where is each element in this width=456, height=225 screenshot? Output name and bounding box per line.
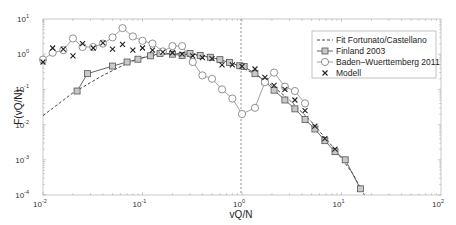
data-point xyxy=(90,43,97,50)
legend-label: Modell xyxy=(336,68,361,78)
legend-marker-icon xyxy=(321,58,328,65)
data-point xyxy=(291,87,298,94)
legend-marker-icon xyxy=(322,48,328,54)
y-tick-label: 10-4 xyxy=(15,189,29,200)
data-point xyxy=(208,75,215,82)
data-point xyxy=(129,33,136,40)
y-axis-label: F(vQ/N) xyxy=(13,89,24,125)
legend-item: Baden–Wuerttemberg 2011 xyxy=(317,57,440,67)
y-tick-label: 100 xyxy=(17,48,29,59)
data-point xyxy=(199,72,206,79)
data-point xyxy=(179,52,185,58)
data-point xyxy=(238,110,245,117)
x-tick-label: 10-1 xyxy=(133,198,147,209)
data-point xyxy=(301,100,308,107)
chart: 10-210-110010110210-410-310-210-1100101 … xyxy=(0,0,456,225)
data-point xyxy=(147,53,153,59)
data-point xyxy=(139,37,146,44)
data-point xyxy=(217,57,223,63)
data-point xyxy=(169,42,176,49)
data-point xyxy=(270,69,277,76)
y-tick-label: 101 xyxy=(17,13,29,24)
data-point xyxy=(357,186,363,192)
data-point xyxy=(109,34,116,41)
data-point xyxy=(218,86,225,93)
data-point xyxy=(178,42,185,49)
x-axis-label: vQ/N xyxy=(230,209,253,220)
data-point xyxy=(251,104,258,111)
data-point xyxy=(302,116,308,122)
data-point xyxy=(84,71,90,77)
data-point xyxy=(229,95,236,102)
y-tick-label: 10-3 xyxy=(15,154,29,165)
data-point xyxy=(60,47,67,54)
data-point xyxy=(79,43,86,50)
data-point xyxy=(282,97,288,103)
data-point xyxy=(124,59,130,65)
x-tick-label: 102 xyxy=(432,198,444,209)
x-tick-label: 101 xyxy=(333,198,345,209)
data-point xyxy=(69,35,76,42)
data-point xyxy=(189,58,196,65)
legend-label: Baden–Wuerttemberg 2011 xyxy=(336,57,440,67)
data-point xyxy=(110,63,116,69)
data-point xyxy=(135,56,141,62)
legend-label: Fit Fortunato/Castellano xyxy=(336,35,427,45)
data-point xyxy=(119,25,126,32)
x-tick-label: 10-2 xyxy=(33,198,47,209)
data-point xyxy=(149,40,156,47)
data-point xyxy=(292,106,298,112)
data-point xyxy=(74,88,80,94)
data-point xyxy=(342,157,348,163)
legend: Fit Fortunato/CastellanoFinland 2003Bade… xyxy=(312,31,440,78)
legend-label: Finland 2003 xyxy=(336,46,385,56)
x-tick-label: 100 xyxy=(233,198,245,209)
